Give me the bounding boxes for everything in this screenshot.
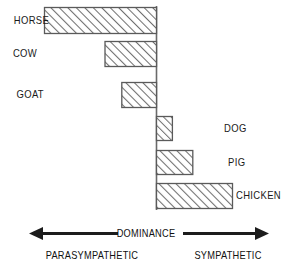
bar-cow — [105, 42, 157, 67]
dominance-bar-chart: HORSE COW GOAT DOG PIG CHICKEN DOMINANCE… — [0, 0, 292, 273]
bar-goat — [122, 83, 157, 108]
category-label-cow: COW — [13, 48, 37, 59]
category-label-pig: PIG — [228, 157, 245, 168]
axis-label-parasympathetic: PARASYMPATHETIC — [33, 250, 151, 261]
bar-horse — [45, 8, 157, 34]
bar-pig — [157, 151, 193, 175]
category-label-dog: DOG — [224, 123, 247, 134]
axis-label-dominance: DOMINANCE — [23, 228, 268, 239]
bar-dog — [157, 117, 173, 141]
category-label-chicken: CHICKEN — [236, 190, 281, 201]
category-label-goat: GOAT — [17, 89, 44, 100]
axis-label-sympathetic: SYMPATHETIC — [181, 250, 275, 261]
category-label-horse: HORSE — [14, 15, 49, 26]
bar-chicken — [157, 184, 233, 209]
